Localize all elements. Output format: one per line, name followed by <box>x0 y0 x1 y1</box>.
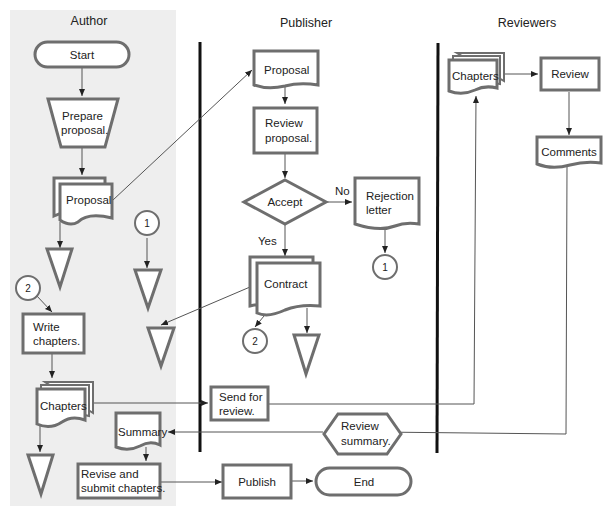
node-prepare-proposal[interactable]: Prepare proposal. <box>48 99 118 147</box>
node-revise-label-1: Revise and <box>81 468 139 480</box>
storage-triangle-icon <box>294 335 319 374</box>
lane-header-author: Author <box>71 14 108 28</box>
node-chapters-reviewers[interactable]: Chapters <box>449 53 504 93</box>
node-end-label: End <box>354 476 374 488</box>
connector-1-publisher-label: 1 <box>382 262 388 273</box>
connector-2-author[interactable]: 2 <box>16 276 40 300</box>
lane-header-publisher: Publisher <box>280 16 332 30</box>
node-review[interactable]: Review <box>541 58 599 90</box>
connector-2-publisher[interactable]: 2 <box>243 329 267 353</box>
connector-1-publisher[interactable]: 1 <box>373 255 397 279</box>
node-proposal-publisher[interactable]: Proposal <box>254 51 318 88</box>
node-send-review-label-1: Send for <box>219 391 263 403</box>
node-chapters-reviewers-label: Chapters <box>452 70 499 82</box>
node-end[interactable]: End <box>316 468 411 495</box>
node-revise-submit[interactable]: Revise and submit chapters. <box>78 464 165 498</box>
connector-2-publisher-label: 2 <box>252 336 258 347</box>
node-revise-label-2: submit chapters. <box>81 482 165 494</box>
edge-label-no: No <box>335 185 350 197</box>
node-publish-label: Publish <box>238 476 276 488</box>
node-write-label-2: chapters. <box>33 335 80 347</box>
node-publish[interactable]: Publish <box>223 465 291 498</box>
node-review-summary-label-2: summary. <box>341 435 391 447</box>
node-start-label: Start <box>70 49 95 61</box>
node-send-review-label-2: review. <box>219 405 255 417</box>
connector-2-author-label: 2 <box>25 283 31 294</box>
node-write-label-1: Write <box>33 321 60 333</box>
node-review-proposal-label-2: proposal. <box>265 132 312 144</box>
edge-label-yes: Yes <box>258 235 277 247</box>
node-send-for-review[interactable]: Send for review. <box>211 387 268 420</box>
node-contract-label: Contract <box>264 278 308 290</box>
node-proposal-author[interactable]: Proposal <box>54 178 112 224</box>
node-start[interactable]: Start <box>35 42 129 67</box>
node-proposal-publisher-label: Proposal <box>264 64 309 76</box>
swimlane-flowchart: Author Publisher Reviewers <box>0 0 614 515</box>
node-chapters-author-label: Chapters <box>40 400 87 412</box>
node-contract[interactable]: Contract <box>250 257 320 315</box>
node-prepare-label-1: Prepare <box>62 110 103 122</box>
node-prepare-label-2: proposal. <box>61 124 108 136</box>
node-summary-label: Summary <box>118 426 167 438</box>
node-review-proposal[interactable]: Review proposal. <box>254 108 317 153</box>
node-rejection-label-2: letter <box>366 204 392 216</box>
node-review-proposal-label-1: Review <box>265 117 303 129</box>
lane-header-reviewers: Reviewers <box>498 16 556 30</box>
node-chapters-author[interactable]: Chapters <box>37 382 93 427</box>
node-rejection-letter[interactable]: Rejection letter <box>355 178 419 229</box>
node-review-summary[interactable]: Review summary. <box>324 414 401 454</box>
node-proposal-author-label: Proposal <box>66 194 111 206</box>
node-review-label: Review <box>551 68 589 80</box>
connector-1-author-label: 1 <box>144 218 150 229</box>
decision-accept[interactable]: Accept <box>244 180 326 224</box>
node-write-chapters[interactable]: Write chapters. <box>23 314 84 353</box>
node-rejection-label-1: Rejection <box>366 190 414 202</box>
node-review-summary-label-1: Review <box>341 420 379 432</box>
node-summary[interactable]: Summary <box>116 413 167 449</box>
decision-accept-label: Accept <box>267 196 303 208</box>
lane-divider-publisher-reviewers <box>437 43 438 453</box>
connector-1-author[interactable]: 1 <box>135 211 159 235</box>
node-comments-label: Comments <box>541 146 597 158</box>
node-comments[interactable]: Comments <box>537 137 601 167</box>
